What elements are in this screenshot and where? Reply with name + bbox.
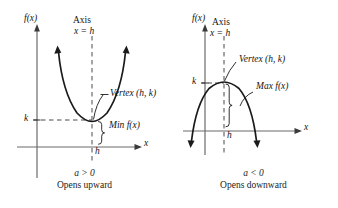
vertex-leader-line [225,62,237,81]
y-tick-label-k: k [192,77,196,87]
x-axis-label: x [144,139,148,149]
min-brace [99,122,105,145]
axis-equation-label: x = h [74,27,94,37]
caption-condition: a > 0 [0,168,169,180]
max-brace [226,84,232,127]
y-axis-label: f(x) [24,14,37,24]
y-tick-label-k: k [24,114,28,124]
x-axis-label: x [304,123,308,133]
x-tick-label-h: h [227,131,232,141]
x-axis [17,144,142,150]
caption-text: Opens upward [0,180,169,192]
axis-equation-label: x = h [210,29,230,39]
y-axis-label: f(x) [192,14,205,24]
curve-arrow-left [54,46,61,54]
parabola-figure: f(x) Axis x = h k h x Vertex (h, k) Min … [0,0,338,208]
panel-opens-upward: f(x) Axis x = h k h x Vertex (h, k) Min … [0,0,169,208]
curve-arrow-right [253,140,260,148]
maximum-callout-label: Max f(x) [256,82,288,92]
vertex-callout-label: Vertex (h, k) [239,55,285,65]
curve-arrow-right [123,46,130,54]
curve-arrow-left [188,140,195,148]
y-axis [202,24,208,155]
caption-opens-upward: a > 0 Opens upward [0,168,169,192]
caption-opens-downward: a < 0 Opens downward [169,168,338,192]
axis-word-label: Axis [73,16,91,26]
panel-opens-downward: f(x) Axis x = h k h x Vertex (h, k) Max … [169,0,338,208]
minimum-callout-label: Min f(x) [109,121,140,131]
vertex-leader-line [94,95,104,120]
caption-condition: a < 0 [169,168,338,180]
vertex-callout-label: Vertex (h, k) [110,89,156,99]
caption-text: Opens downward [169,180,338,192]
x-tick-label-h: h [95,147,100,157]
axis-word-label: Axis [212,18,230,28]
y-axis [34,24,40,178]
x-axis [183,128,302,134]
